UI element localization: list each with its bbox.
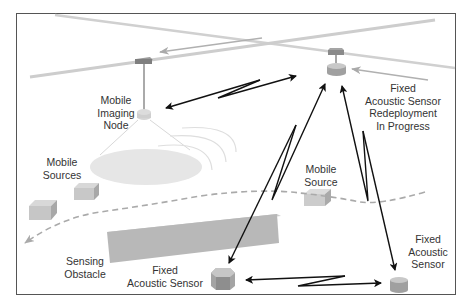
label-line: Acoustic Sensor	[360, 95, 446, 108]
label-line: Mobile	[297, 163, 345, 176]
diagram-frame	[17, 14, 456, 295]
label-fixed-sensor-right: Fixed Acoustic Sensor	[406, 233, 450, 271]
label-line: In Progress	[360, 120, 446, 133]
fixed-sensor-center	[211, 268, 235, 290]
imaging-footprint	[90, 149, 202, 185]
label-mobile-sources: Mobile Sources	[38, 156, 86, 181]
label-line: Node	[94, 119, 138, 132]
label-line: Acoustic	[406, 246, 450, 259]
sensor-network-diagram: Mobile Imaging Node Mobile Sources Mobil…	[0, 0, 466, 305]
label-fixed-sensor-redeploy: Fixed Acoustic Sensor Redeployment In Pr…	[360, 82, 446, 132]
fixed-sensor-right	[390, 277, 408, 293]
label-line: Fixed	[360, 82, 446, 95]
label-mobile-source: Mobile Source	[297, 163, 345, 188]
label-line: Obstacle	[60, 268, 110, 281]
label-fixed-sensor-center: Fixed Acoustic Sensor	[124, 264, 206, 289]
label-line: Redeployment	[360, 107, 446, 120]
label-line: Mobile	[38, 156, 86, 169]
label-line: Imaging	[94, 107, 138, 120]
label-sensing-obstacle: Sensing Obstacle	[60, 255, 110, 280]
label-line: Source	[297, 176, 345, 189]
label-line: Sensing	[60, 255, 110, 268]
label-line: Acoustic Sensor	[124, 277, 206, 290]
label-line: Sources	[38, 169, 86, 182]
label-mobile-imaging-node: Mobile Imaging Node	[94, 94, 138, 132]
label-line: Fixed	[406, 233, 450, 246]
label-line: Sensor	[406, 258, 450, 271]
label-line: Mobile	[94, 94, 138, 107]
label-line: Fixed	[124, 264, 206, 277]
